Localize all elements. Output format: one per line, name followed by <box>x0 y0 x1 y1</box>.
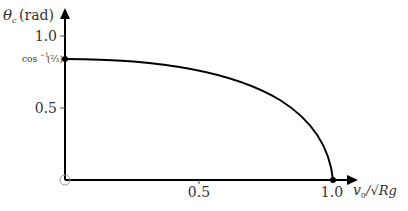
xtick-05: 0.5 <box>188 184 210 200</box>
xlabel-sub: 0 <box>361 192 365 200</box>
xlabel-rest: /√Rg <box>364 183 397 198</box>
curve <box>65 59 333 180</box>
yannot-frac: (⅔) <box>47 54 63 64</box>
ylabel-sub: c <box>12 16 17 25</box>
chart: θ c (rad) 1.0 0.5 cos −1 (⅔) 0.5 1.0 v 0… <box>0 0 408 211</box>
y-axis-arrow-icon <box>60 8 70 19</box>
ytick-05: 0.5 <box>35 100 57 116</box>
ylabel-unit: (rad) <box>19 7 54 23</box>
xtick-1: 1.0 <box>321 184 343 200</box>
marker-start <box>62 56 68 62</box>
yannot-cos: cos <box>22 54 37 64</box>
ytick-1: 1.0 <box>35 28 57 44</box>
xlabel-v: v <box>353 182 361 198</box>
marker-end <box>330 177 336 183</box>
ylabel-theta: θ <box>3 6 12 24</box>
